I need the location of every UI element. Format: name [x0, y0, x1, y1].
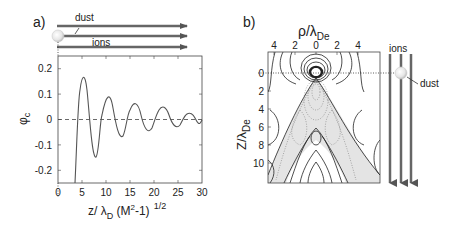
panel-b: b) ρ/λDe 4 2 0 2 4 0 2 4 6 8 10 Z/λDe [234, 14, 439, 183]
dust-grain-center [312, 68, 320, 76]
svg-text:0.1: 0.1 [38, 89, 52, 100]
svg-text:4: 4 [355, 40, 361, 51]
svg-text:20: 20 [148, 187, 160, 198]
panel-a-label: a) [33, 14, 45, 30]
svg-text:4: 4 [271, 40, 277, 51]
panel-a-schematic: dust ions [52, 12, 187, 56]
figure: a) dust ions [0, 0, 460, 228]
svg-text:0: 0 [313, 40, 319, 51]
svg-text:6: 6 [258, 122, 264, 133]
svg-text:10: 10 [253, 158, 265, 169]
svg-text:0: 0 [46, 114, 52, 125]
panel-b-xtick-labels: 4 2 0 2 4 [271, 40, 361, 51]
svg-text:-0.1: -0.1 [35, 140, 53, 151]
svg-text:10: 10 [100, 187, 112, 198]
dust-grain-icon-b [395, 67, 407, 79]
phi-curve [75, 77, 202, 183]
svg-text:2: 2 [292, 40, 298, 51]
dust-pointer [75, 28, 79, 34]
contour-plot [268, 52, 380, 183]
ions-label: ions [92, 37, 110, 48]
svg-text:8: 8 [258, 140, 264, 151]
svg-text:15: 15 [124, 187, 136, 198]
svg-text:0.2: 0.2 [38, 63, 52, 74]
svg-text:0: 0 [258, 68, 264, 79]
svg-text:-0.2: -0.2 [35, 165, 53, 176]
dust-label-b: dust [420, 78, 439, 89]
panel-a-ylabel: φc [16, 112, 32, 125]
panel-b-ytick-labels: 0 2 4 6 8 10 [253, 68, 265, 169]
dust-grain-icon [52, 30, 64, 42]
panel-a: a) dust ions [16, 12, 208, 221]
svg-text:4: 4 [258, 104, 264, 115]
svg-text:5: 5 [79, 187, 85, 198]
panel-a-xlabel: z/ λD (M2-1)1/2 [88, 201, 166, 221]
dust-label: dust [75, 12, 94, 23]
ions-label-b: ions [389, 43, 407, 54]
panel-a-xtick-labels: 0 5 10 15 20 25 30 [55, 187, 208, 198]
panel-b-schematic: ions dust [389, 43, 439, 183]
svg-text:25: 25 [172, 187, 184, 198]
panel-b-ylabel: Z/λDe [234, 119, 252, 150]
svg-text:2: 2 [334, 40, 340, 51]
panel-a-ytick-labels: 0.2 0.1 0 -0.1 -0.2 [35, 63, 53, 176]
dust-pointer-b [407, 77, 418, 84]
svg-text:2: 2 [258, 86, 264, 97]
svg-text:30: 30 [196, 187, 208, 198]
svg-text:0: 0 [55, 187, 61, 198]
panel-b-label: b) [243, 14, 255, 30]
